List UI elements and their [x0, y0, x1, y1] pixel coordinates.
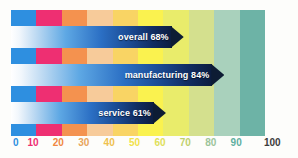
bar-arrowhead — [171, 26, 184, 48]
x-tick-label-40: 40 — [104, 136, 115, 150]
bar-label-service: service 61% — [98, 108, 151, 118]
bar-manufacturing: manufacturing 84% — [11, 64, 265, 86]
bar-arrowhead — [153, 102, 166, 124]
bar-label-overall: overall 68% — [118, 32, 169, 42]
bar-arrowhead — [211, 64, 224, 86]
x-tick-label-60: 60 — [154, 136, 165, 150]
x-tick-label-100: 100 — [264, 136, 281, 150]
plot-area: overall 68%manufacturing 84%service 61% — [11, 10, 265, 136]
x-axis: 0102030405060708090100 — [0, 136, 298, 156]
x-tick-label-20: 20 — [53, 136, 64, 150]
x-tick-label-0: 0 — [13, 136, 19, 150]
bar-label-manufacturing: manufacturing 84% — [125, 70, 210, 80]
x-tick-label-30: 30 — [78, 136, 89, 150]
x-tick-label-10: 10 — [27, 136, 38, 150]
x-tick-label-70: 70 — [180, 136, 191, 150]
x-tick-label-80: 80 — [205, 136, 216, 150]
x-tick-label-90: 90 — [231, 136, 242, 150]
bar-chart: overall 68%manufacturing 84%service 61% … — [0, 0, 298, 158]
bar-series: overall 68%manufacturing 84%service 61% — [11, 10, 265, 136]
bar-overall: overall 68% — [11, 26, 265, 48]
bar-service: service 61% — [11, 102, 265, 124]
x-tick-label-50: 50 — [129, 136, 140, 150]
